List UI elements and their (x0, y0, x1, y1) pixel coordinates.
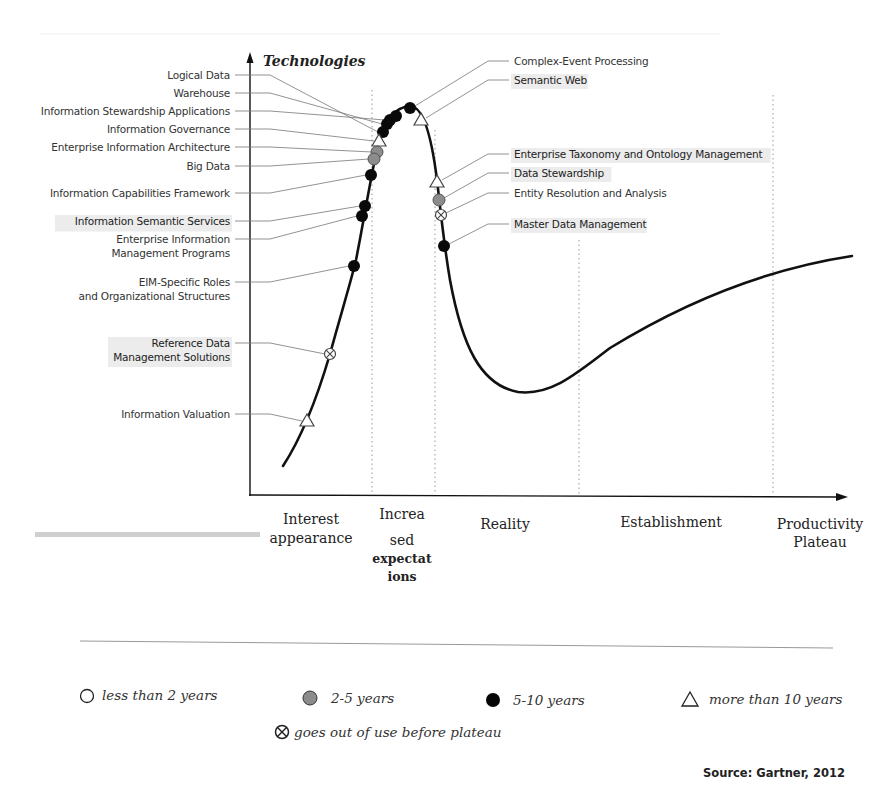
tech-enterprise-information-architecture-label: Enterprise Information Architecture (51, 141, 230, 153)
tech-enterprise-taxonomy-and-ontology-management-label: Enterprise Taxonomy and Ontology Managem… (514, 148, 762, 160)
y-axis-title: Technologies (263, 53, 366, 69)
tech-entity-resolution-and-analysis-crossed-circle-icon (436, 210, 447, 221)
tech-complex-event-processing-leader-line (415, 61, 509, 106)
phase-increased-line2: sed (390, 532, 414, 548)
legend-label-5to10: 5-10 years (513, 692, 585, 708)
tech-information-valuation: Information Valuation (121, 408, 302, 421)
gray-bar (35, 532, 260, 537)
tech-entity-resolution-and-analysis: Entity Resolution and Analysis (446, 187, 667, 213)
extra-marker-0-black-dot-icon (390, 110, 402, 122)
tech-information-valuation-label: Information Valuation (121, 408, 230, 420)
tech-warehouse-leader-line (235, 93, 382, 124)
black-circle-icon (486, 693, 500, 707)
tech-logical-data-label: Logical Data (167, 69, 230, 81)
legend: less than 2 years 2-5 years 5-10 years m… (81, 687, 843, 740)
tech-information-capabilities-framework-black-dot-icon (365, 169, 377, 181)
tech-big-data-leader-line (235, 159, 369, 166)
phase-increased-line3: expectat (372, 551, 432, 566)
phase-plateau-line2: Plateau (793, 534, 847, 550)
legend-item-2to5: 2-5 years (303, 690, 394, 706)
phase-interest-line2: appearance (269, 530, 352, 546)
tech-information-capabilities-framework-label: Information Capabilities Framework (50, 187, 231, 199)
hype-cycle-chart: Technologies Logical DataWarehouseInform… (0, 0, 890, 790)
tech-information-stewardship-applications-label: Information Stewardship Applications (41, 105, 230, 117)
tech-eim-specific-roles-and-organizational-structures-label: EIM-Specific Roles (139, 276, 230, 288)
tech-information-semantic-services-label: Information Semantic Services (75, 215, 230, 227)
tech-eim-specific-roles-and-organizational-structures-black-dot-icon (348, 260, 360, 272)
phase-increased-line4: ions (387, 569, 416, 584)
tech-enterprise-information-management-programs-label: Enterprise Information (116, 233, 230, 245)
gray-circle-icon (303, 691, 317, 705)
tech-complex-event-processing-label: Complex-Event Processing (514, 55, 649, 67)
legend-item-lt2: less than 2 years (81, 687, 218, 703)
tech-reference-data-management-solutions-leader-line (235, 343, 325, 354)
tech-data-stewardship-label: Data Stewardship (514, 167, 605, 179)
tech-warehouse-label: Warehouse (173, 87, 230, 99)
tech-information-governance-label: Information Governance (107, 123, 230, 135)
tech-eim-specific-roles-and-organizational-structures-label: and Organizational Structures (79, 290, 230, 302)
tech-enterprise-information-architecture-leader-line (235, 147, 372, 152)
tech-enterprise-taxonomy-and-ontology-management-triangle-icon (430, 175, 444, 187)
tech-information-capabilities-framework-leader-line (235, 175, 366, 193)
legend-item-obsolete: goes out of use before plateau (276, 724, 502, 740)
tech-reference-data-management-solutions-crossed-circle-icon (325, 349, 336, 360)
tech-data-stewardship-leader-line (444, 173, 509, 198)
tech-information-capabilities-framework: Information Capabilities Framework (50, 175, 366, 199)
tech-big-data-gray-dot-icon (368, 153, 380, 165)
legend-label-lt2: less than 2 years (102, 687, 218, 703)
legend-label-obsolete: goes out of use before plateau (294, 724, 502, 740)
phase-reality: Reality (480, 516, 530, 532)
tech-semantic-web: Semantic Web (426, 74, 588, 118)
tech-reference-data-management-solutions-label: Management Solutions (113, 351, 230, 363)
tech-semantic-web-label: Semantic Web (514, 74, 588, 86)
x-axis-arrow-icon (836, 493, 848, 501)
tech-information-valuation-triangle-icon (300, 414, 314, 426)
phase-plateau-line1: Productivity (777, 516, 863, 532)
right-label-group: Complex-Event ProcessingSemantic WebEnte… (415, 55, 771, 244)
triangle-icon (682, 692, 698, 706)
source-note: Source: Gartner, 2012 (703, 766, 845, 780)
left-label-group: Logical DataWarehouseInformation Steward… (41, 69, 385, 421)
tech-enterprise-information-architecture: Enterprise Information Architecture (51, 141, 372, 153)
tech-big-data-label: Big Data (186, 160, 230, 172)
tech-reference-data-management-solutions: Reference DataManagement Solutions (108, 337, 325, 367)
tech-eim-specific-roles-and-organizational-structures-leader-line (235, 266, 349, 282)
tech-information-stewardship-applications: Information Stewardship Applications (41, 105, 385, 120)
legend-divider (80, 641, 833, 648)
hype-cycle-figure: Technologies Logical DataWarehouseInform… (0, 0, 890, 790)
tech-information-governance-leader-line (235, 129, 374, 141)
x-axis (249, 493, 848, 501)
y-axis-arrow-icon (247, 52, 254, 63)
tech-master-data-management: Master Data Management (449, 218, 647, 244)
tech-information-governance: Information Governance (107, 123, 374, 141)
legend-item-5to10: 5-10 years (486, 692, 585, 708)
legend-item-gt10: more than 10 years (682, 691, 842, 707)
tech-eim-specific-roles-and-organizational-structures: EIM-Specific Rolesand Organizational Str… (79, 266, 349, 302)
phase-labels: Interest appearance Increa sed expectat … (269, 506, 863, 584)
tech-master-data-management-leader-line (449, 224, 509, 244)
tech-enterprise-information-management-programs-black-dot-icon (356, 210, 368, 222)
legend-label-2to5: 2-5 years (330, 690, 394, 706)
tech-semantic-web-leader-line (426, 80, 509, 118)
tech-big-data: Big Data (186, 159, 369, 172)
tech-reference-data-management-solutions-label: Reference Data (152, 337, 230, 349)
tech-master-data-management-label: Master Data Management (514, 218, 646, 230)
crossed-circle-icon (276, 726, 289, 739)
tech-entity-resolution-and-analysis-leader-line (446, 193, 509, 213)
tech-information-semantic-services-leader-line (235, 206, 360, 221)
legend-label-gt10: more than 10 years (709, 691, 842, 707)
open-circle-icon (81, 690, 94, 703)
phase-establishment: Establishment (620, 514, 722, 530)
tech-information-valuation-leader-line (235, 414, 302, 421)
tech-entity-resolution-and-analysis-label: Entity Resolution and Analysis (514, 187, 667, 199)
tech-complex-event-processing-black-dot-icon (404, 102, 416, 114)
tech-enterprise-information-management-programs-leader-line (235, 216, 357, 239)
tech-enterprise-information-management-programs-label: Management Programs (112, 247, 230, 259)
tech-data-stewardship-gray-dot-icon (433, 194, 445, 206)
phase-increased-line1: Increa (379, 506, 425, 522)
phase-interest-line1: Interest (283, 511, 340, 527)
y-axis (247, 52, 254, 496)
tech-master-data-management-black-dot-icon (438, 240, 450, 252)
tech-enterprise-taxonomy-and-ontology-management-leader-line (442, 154, 509, 180)
tech-semantic-web-triangle-icon (414, 113, 428, 125)
